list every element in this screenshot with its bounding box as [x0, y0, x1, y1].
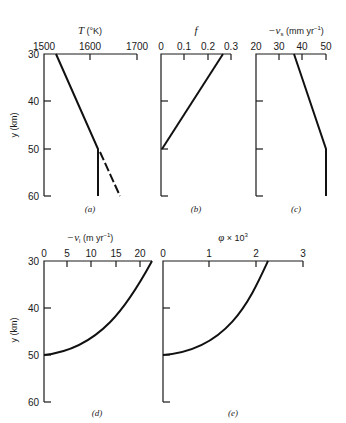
tick-label: 1600 [79, 41, 102, 52]
panel-d: −vl (m yr−1) 0 5 10 15 20 (d) [41, 231, 152, 418]
y-axis-top: 30 40 50 60 y (km) [9, 49, 39, 202]
y-tick-label: 60 [28, 191, 40, 202]
tick-label: 0 [41, 248, 47, 259]
panel-b-axes [161, 54, 231, 196]
y-tick-label: 30 [28, 49, 40, 60]
tick-label: 5 [64, 248, 70, 259]
tick-label: 30 [273, 41, 285, 52]
temperature-dashed-curve [100, 152, 120, 196]
tick-label: 20 [250, 41, 262, 52]
tick-label: 1700 [126, 41, 149, 52]
panel-d-xlabel: −vl (m yr−1) [67, 231, 114, 244]
temperature-curve [56, 54, 98, 196]
y-tick-label: 50 [28, 350, 40, 361]
panel-c-label: (c) [291, 204, 301, 214]
panel-b-label: (b) [191, 204, 202, 214]
panel-e-label: (e) [228, 408, 238, 418]
panel-a-label: (a) [85, 204, 96, 214]
tick-label: 15 [110, 248, 122, 259]
y-axis-bottom: 30 40 50 60 y (km) [9, 256, 39, 408]
y-tick-label: 40 [28, 303, 40, 314]
panel-e: φ × 103 0 1 2 3 (e) [160, 231, 306, 418]
phi-curve [163, 261, 268, 355]
panel-c-axes [256, 54, 326, 196]
panel-a-axes [44, 54, 137, 196]
tick-label: 10 [85, 248, 97, 259]
panel-a-xlabel: T (°K) [78, 24, 102, 36]
tick-label: 40 [296, 41, 308, 52]
tick-label: 1 [206, 248, 212, 259]
panel-e-xlabel: φ × 103 [218, 231, 248, 243]
figure: T (°K) 1500 1600 1700 (a) 30 40 50 60 y … [0, 0, 346, 423]
y-tick-label: 60 [28, 397, 40, 408]
tick-label: 0 [160, 248, 166, 259]
tick-label: 2 [253, 248, 259, 259]
f-curve [162, 54, 223, 149]
vl-curve [44, 261, 152, 355]
y-tick-label: 30 [28, 256, 40, 267]
tick-label: 0 [158, 41, 164, 52]
tick-label: 0.1 [177, 41, 191, 52]
y-tick-label: 50 [28, 144, 40, 155]
panel-b: f 0 0.1 0.2 0.3 (b) [158, 24, 238, 214]
panel-e-axes [163, 261, 303, 402]
y-axis-title: y (km) [9, 113, 19, 138]
tick-label: 0.3 [224, 41, 238, 52]
panel-c-xlabel: −vs (mm yr−1) [268, 24, 324, 37]
tick-label: 3 [300, 248, 306, 259]
panel-a: T (°K) 1500 1600 1700 (a) [33, 24, 149, 214]
panel-d-axes [44, 261, 152, 402]
panel-d-label: (d) [92, 408, 103, 418]
tick-label: 0.2 [201, 41, 215, 52]
tick-label: 20 [134, 248, 146, 259]
tick-label: 50 [320, 41, 332, 52]
panel-c: −vs (mm yr−1) 20 30 40 50 (c) [250, 24, 332, 214]
vs-curve [294, 54, 326, 196]
y-axis-title: y (km) [9, 318, 19, 343]
panel-b-xlabel: f [194, 24, 199, 36]
y-tick-label: 40 [28, 96, 40, 107]
